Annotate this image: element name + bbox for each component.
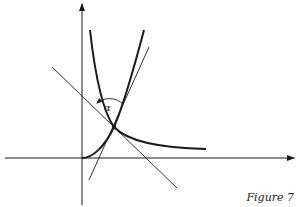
figure-caption: Figure 7 bbox=[246, 191, 294, 204]
decreasing-curve bbox=[90, 30, 206, 149]
intersection-point bbox=[112, 125, 116, 129]
figure-diagram bbox=[0, 0, 298, 207]
angle-alpha-label: α bbox=[104, 102, 111, 113]
